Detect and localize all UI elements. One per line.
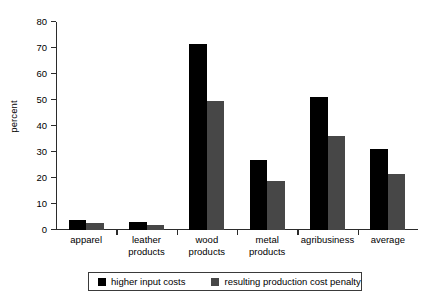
y-axis-title: percent (2, 0, 24, 232)
y-axis-tick: 40 (51, 125, 56, 126)
legend-item-resulting-production-cost-penalty: resulting production cost penalty (211, 276, 360, 287)
x-axis-label: agribusiness (297, 234, 357, 246)
x-axis-label: average (358, 234, 418, 246)
x-axis-category-labels: apparelleather productswood productsmeta… (56, 234, 418, 268)
bar-0 (310, 97, 328, 230)
x-axis-label: leather products (116, 234, 176, 257)
y-axis-tick: 20 (51, 177, 56, 178)
bar-group (250, 22, 285, 230)
y-axis-tick: 60 (51, 73, 56, 74)
x-axis-label: apparel (56, 234, 116, 246)
plot-area: 01020304050607080 (56, 22, 418, 230)
y-axis-tick-label: 80 (36, 16, 47, 27)
bar-0 (129, 222, 147, 230)
y-axis-tick-label: 30 (36, 146, 47, 157)
bar-1 (207, 101, 225, 230)
y-axis-tick: 0 (51, 229, 56, 230)
bar-chart: percent 01020304050607080 apparelleather… (0, 0, 425, 299)
bar-0 (250, 160, 268, 230)
y-axis-tick-label: 50 (36, 94, 47, 105)
bar-group (189, 22, 224, 230)
bar-0 (189, 44, 207, 230)
legend-swatch-series-0 (98, 278, 106, 286)
bar-group (370, 22, 405, 230)
y-axis-tick: 80 (51, 21, 56, 22)
y-axis-tick-label: 60 (36, 68, 47, 79)
bar-1 (328, 136, 346, 230)
y-axis-tick-label: 70 (36, 42, 47, 53)
legend-label-series-0: higher input costs (111, 276, 185, 287)
y-axis-tick-label: 20 (36, 172, 47, 183)
bar-group (69, 22, 104, 230)
y-axis-tick: 50 (51, 99, 56, 100)
legend-item-higher-input-costs: higher input costs (98, 276, 185, 287)
y-axis-title-text: percent (8, 100, 19, 132)
bar-0 (69, 220, 87, 230)
x-axis-label: wood products (177, 234, 237, 257)
chart-legend: higher input costs resulting production … (88, 272, 362, 291)
x-axis-label: metal products (237, 234, 297, 257)
y-axis-tick-label: 10 (36, 198, 47, 209)
y-axis-tick: 30 (51, 151, 56, 152)
y-axis-tick-label: 0 (42, 224, 47, 235)
bar-group (310, 22, 345, 230)
y-axis-tick-label: 40 (36, 120, 47, 131)
bar-1 (86, 223, 104, 230)
bar-0 (370, 149, 388, 230)
y-axis-line (56, 22, 57, 230)
bar-1 (267, 181, 285, 230)
legend-label-series-1: resulting production cost penalty (224, 276, 360, 287)
legend-swatch-series-1 (211, 278, 219, 286)
bar-1 (388, 174, 406, 230)
y-axis-tick: 70 (51, 47, 56, 48)
y-axis-tick: 10 (51, 203, 56, 204)
bar-1 (147, 225, 165, 230)
bar-group (129, 22, 164, 230)
